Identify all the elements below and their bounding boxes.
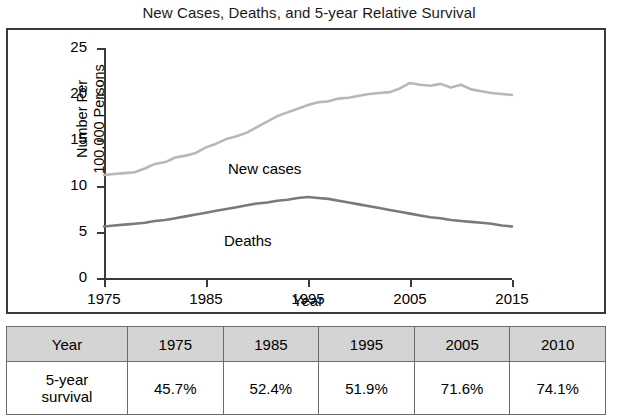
chart-panel: Number Per 100,000 Persons 25 20 15 10 5… [6,28,606,314]
table-header-2005: 2005 [414,327,510,362]
survival-table-wrap: Year 1975 1985 1995 2005 2010 5-year sur… [6,326,606,415]
table-header-1975: 1975 [128,327,224,362]
x-tick-1975 [104,280,106,287]
x-tick-1985 [206,280,208,287]
table-row-label-line1: 5-year [46,371,89,388]
y-tick-label-20: 20 [57,84,87,101]
figure-root: New Cases, Deaths, and 5-year Relative S… [0,0,618,420]
y-tick-0: 0 [97,278,104,280]
figure-title: New Cases, Deaths, and 5-year Relative S… [0,4,618,21]
plot-area: 25 20 15 10 5 0 1975 1985 1995 [104,48,512,280]
table-cell-2010: 74.1% [510,362,606,415]
y-tick-10: 10 [97,186,104,188]
table-cell-1975: 45.7% [128,362,224,415]
table-row-label-line2: survival [42,388,93,405]
x-tick-2005 [410,280,412,287]
y-axis-title-text: Number Per 100,000 Persons [74,64,107,174]
y-tick-label-0: 0 [57,268,87,285]
x-tick-2015 [512,280,514,287]
y-tick-20: 20 [97,94,104,96]
table-header-1985: 1985 [223,327,319,362]
table-header-1995: 1995 [319,327,415,362]
y-tick-label-5: 5 [57,222,87,239]
x-axis-title: Year [104,292,512,309]
table-cell-2005: 71.6% [414,362,510,415]
x-tick-1995 [308,280,310,287]
y-tick-label-25: 25 [57,38,87,55]
y-axis-title: Number Per 100,000 Persons [74,54,108,184]
table-cell-1995: 51.9% [319,362,415,415]
y-tick-15: 15 [97,140,104,142]
table-cell-1985: 52.4% [223,362,319,415]
series-label-deaths: Deaths [224,232,272,249]
series-lines [104,48,512,280]
line-deaths [104,197,512,226]
y-tick-5: 5 [97,232,104,234]
y-tick-label-15: 15 [57,130,87,147]
line-new-cases [104,83,512,175]
survival-table: Year 1975 1985 1995 2005 2010 5-year sur… [6,326,606,415]
table-row-label: 5-year survival [7,362,128,415]
series-label-new-cases: New cases [228,160,301,177]
table-row: 5-year survival 45.7% 52.4% 51.9% 71.6% … [7,362,606,415]
table-header-row: Year 1975 1985 1995 2005 2010 [7,327,606,362]
y-tick-label-10: 10 [57,176,87,193]
y-tick-25: 25 [97,48,104,50]
table-header-year: Year [7,327,128,362]
table-header-2010: 2010 [510,327,606,362]
